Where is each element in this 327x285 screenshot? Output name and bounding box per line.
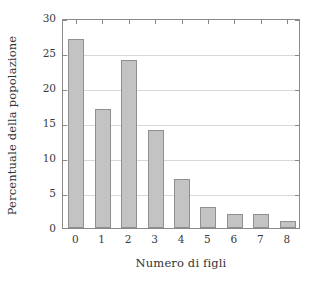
y-tick-mark-15 xyxy=(63,125,67,126)
x-tick-label-1: 1 xyxy=(92,233,112,245)
y-tick-mark-10 xyxy=(63,160,67,161)
y-tick-label-30: 30 xyxy=(26,12,56,24)
bar-3 xyxy=(148,130,164,228)
y-tick-mark-5 xyxy=(63,195,67,196)
bar-4 xyxy=(174,179,190,228)
x-tick-label-8: 8 xyxy=(277,233,297,245)
x-tick-mark-top-8 xyxy=(287,20,288,24)
x-tick-mark-top-7 xyxy=(261,20,262,24)
y-tick-mark-right-20 xyxy=(295,90,299,91)
x-tick-label-2: 2 xyxy=(118,233,138,245)
x-tick-mark-top-5 xyxy=(208,20,209,24)
x-tick-mark-top-4 xyxy=(182,20,183,24)
x-tick-label-5: 5 xyxy=(197,233,217,245)
x-tick-mark-top-3 xyxy=(155,20,156,24)
y-tick-mark-20 xyxy=(63,90,67,91)
y-tick-mark-right-10 xyxy=(295,160,299,161)
x-tick-label-6: 6 xyxy=(224,233,244,245)
y-tick-mark-30 xyxy=(63,20,67,21)
gridline-25 xyxy=(63,55,299,56)
y-tick-label-0: 0 xyxy=(26,222,56,234)
x-tick-label-0: 0 xyxy=(65,233,85,245)
y-tick-label-5: 5 xyxy=(26,187,56,199)
x-axis-title: Numero di figli xyxy=(62,256,300,270)
y-axis-title: Percentuale della popolazione xyxy=(2,13,22,238)
y-tick-mark-right-30 xyxy=(295,20,299,21)
bar-0 xyxy=(68,39,84,228)
x-tick-mark-top-0 xyxy=(76,20,77,24)
bar-8 xyxy=(280,221,296,228)
y-tick-mark-25 xyxy=(63,55,67,56)
bar-2 xyxy=(121,60,137,228)
y-tick-mark-right-15 xyxy=(295,125,299,126)
bar-5 xyxy=(200,207,216,228)
y-tick-label-25: 25 xyxy=(26,47,56,59)
bar-6 xyxy=(227,214,243,228)
gridline-20 xyxy=(63,90,299,91)
y-tick-label-15: 15 xyxy=(26,117,56,129)
plot-inner xyxy=(63,20,299,228)
x-tick-label-3: 3 xyxy=(145,233,165,245)
y-tick-mark-right-5 xyxy=(295,195,299,196)
plot-area xyxy=(62,19,300,229)
bar-1 xyxy=(95,109,111,228)
x-tick-mark-top-6 xyxy=(234,20,235,24)
x-tick-mark-top-2 xyxy=(129,20,130,24)
x-tick-mark-top-1 xyxy=(102,20,103,24)
y-tick-label-20: 20 xyxy=(26,82,56,94)
bar-7 xyxy=(253,214,269,228)
y-tick-mark-right-25 xyxy=(295,55,299,56)
x-tick-label-4: 4 xyxy=(171,233,191,245)
y-tick-label-10: 10 xyxy=(26,152,56,164)
x-tick-label-7: 7 xyxy=(250,233,270,245)
bar-chart-figure: Percentuale della popolazione Numero di … xyxy=(0,0,327,285)
